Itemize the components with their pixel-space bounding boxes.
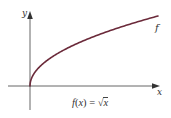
caption-radicand: x — [103, 97, 109, 109]
y-axis-arrow-icon — [27, 11, 33, 19]
x-axis-label: x — [157, 88, 162, 97]
sqrt-curve — [30, 16, 158, 86]
sqrt-function-graph: y x f f(x) = √x — [0, 0, 171, 118]
caption-equals: = — [87, 97, 98, 108]
function-caption: f(x) = √x — [72, 97, 108, 109]
y-axis-label: y — [22, 9, 27, 18]
curve-label: f — [155, 23, 159, 33]
